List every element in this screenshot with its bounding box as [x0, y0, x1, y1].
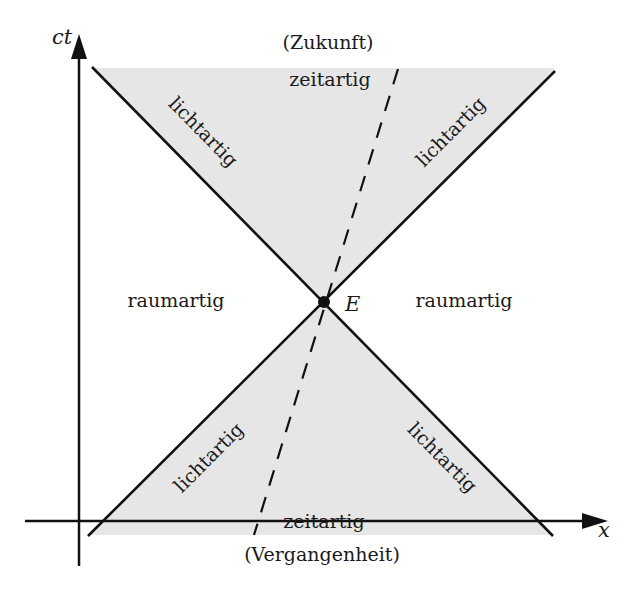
- future-light-cone: [92, 68, 555, 302]
- event-label: E: [344, 292, 360, 316]
- past-title: (Vergangenheit): [244, 543, 400, 565]
- space-like-right-label: raumartig: [416, 289, 513, 311]
- ct-axis-label: ct: [52, 25, 73, 49]
- past-region-label: zeitartig: [283, 510, 364, 532]
- space-like-left-label: raumartig: [128, 289, 225, 311]
- x-axis-label: x: [598, 518, 610, 542]
- ct-axis-arrow-icon: [71, 34, 87, 59]
- light-cone-diagram: ct x E (Zukunft) zeitartig zeitartig (Ve…: [0, 0, 636, 593]
- future-region-label: zeitartig: [289, 68, 370, 90]
- future-title: (Zukunft): [283, 31, 374, 53]
- event-point: [318, 296, 330, 308]
- past-light-cone: [88, 302, 553, 535]
